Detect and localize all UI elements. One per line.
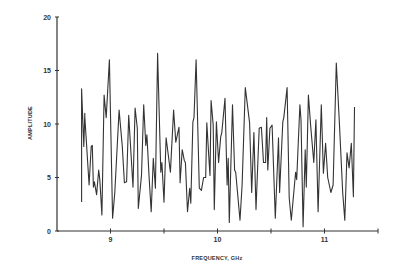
x-tick-label: 10	[214, 236, 222, 243]
x-tick-label: 9	[109, 236, 113, 243]
amplitude-frequency-chart: 05101520 91011 FREQUENCY, GHz AMPLITUDE	[0, 0, 398, 276]
y-tick-label: 20	[43, 14, 51, 21]
x-tick-label: 11	[321, 236, 329, 243]
y-tick-label: 5	[47, 174, 51, 181]
y-tick-label: 15	[43, 67, 51, 74]
y-tick-label: 0	[47, 228, 51, 235]
y-axis: 05101520	[43, 14, 59, 235]
y-axis-title: AMPLITUDE	[27, 106, 33, 140]
x-axis-title: FREQUENCY, GHz	[192, 255, 243, 261]
y-tick-label: 10	[43, 121, 51, 128]
x-axis: 91011	[57, 229, 378, 244]
amplitude-series-line	[82, 53, 355, 226]
